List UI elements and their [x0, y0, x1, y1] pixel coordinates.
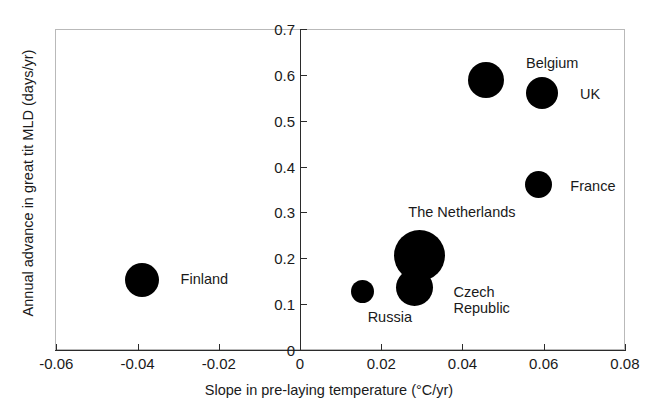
- x-tick-mark: [56, 344, 57, 350]
- y-tick-mark: [301, 121, 307, 122]
- x-tick-mark: [300, 344, 301, 350]
- x-tick-mark: [462, 344, 463, 350]
- x-tick-label: -0.06: [39, 356, 73, 371]
- y-tick-label: 0.5: [274, 113, 295, 128]
- x-axis-title: Slope in pre-laying temperature (°C/yr): [0, 382, 658, 398]
- y-axis-spine: [300, 29, 301, 351]
- y-tick-mark: [301, 167, 307, 168]
- y-axis-title: Annual advance in great tit MLD (days/yr…: [20, 13, 36, 353]
- x-tick-mark: [138, 344, 139, 350]
- data-point-russia: [351, 280, 374, 303]
- x-tick-mark: [544, 344, 545, 350]
- x-tick-label: 0.02: [367, 356, 396, 371]
- x-tick-label: -0.04: [120, 356, 154, 371]
- y-tick-mark: [301, 212, 307, 213]
- x-tick-label: 0.06: [529, 356, 558, 371]
- y-tick-label: 0.7: [274, 22, 295, 37]
- y-tick-mark: [301, 350, 307, 351]
- data-label-uk: UK: [580, 87, 600, 103]
- y-tick-label: 0.6: [274, 67, 295, 82]
- x-axis-spine: [55, 350, 626, 351]
- x-tick-label: -0.02: [202, 356, 236, 371]
- x-tick-mark: [625, 344, 626, 351]
- data-label-the-netherlands: The Netherlands: [408, 205, 515, 221]
- x-tick-mark: [381, 344, 382, 350]
- data-point-finland: [125, 263, 159, 297]
- data-label-france: France: [570, 179, 615, 195]
- data-label-finland: Finland: [181, 272, 229, 288]
- data-point-the-netherlands: [394, 230, 445, 281]
- x-tick-label: 0.08: [610, 356, 639, 371]
- y-tick-label: 0.2: [274, 251, 295, 266]
- x-tick-label: 0: [296, 356, 304, 371]
- y-tick-label: 0.1: [274, 297, 295, 312]
- y-tick-label: 0.4: [274, 159, 295, 174]
- x-tick-label: 0.04: [448, 356, 477, 371]
- y-tick-mark: [301, 75, 307, 76]
- x-tick-mark: [219, 344, 220, 350]
- scatter-plot-figure: 00.10.20.30.40.50.60.7 -0.06-0.04-0.0200…: [0, 0, 658, 420]
- y-tick-mark: [301, 29, 307, 30]
- data-point-belgium: [468, 62, 504, 98]
- y-tick-mark: [301, 258, 307, 259]
- data-label-czech-republic: Czech Republic: [453, 285, 539, 316]
- data-label-russia: Russia: [368, 310, 412, 326]
- y-tick-label: 0.3: [274, 205, 295, 220]
- data-label-belgium: Belgium: [526, 56, 578, 72]
- y-tick-mark: [301, 304, 307, 305]
- y-tick-label: 0: [287, 343, 295, 358]
